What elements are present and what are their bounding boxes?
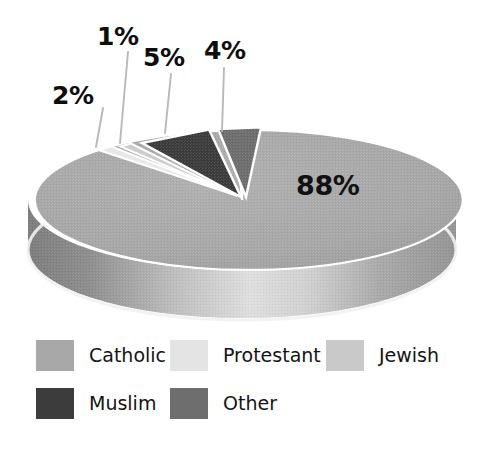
legend-item-muslim[interactable]: Muslim: [36, 386, 156, 420]
pie-label-muslim: 5%: [143, 45, 185, 70]
legend-label: Other: [223, 394, 277, 413]
leader-line-protestant: [96, 108, 103, 147]
leader-line-muslim: [165, 74, 171, 133]
legend-swatch-icon: [36, 388, 74, 419]
legend-label: Protestant: [223, 346, 321, 365]
leader-line-jewish: [120, 52, 128, 143]
pie-chart: 2% 1% 5% 4% 88% Catholic Protestant Jewi…: [0, 0, 486, 464]
legend-item-other[interactable]: Other: [170, 386, 277, 420]
pie-label-jewish: 1%: [97, 24, 139, 49]
legend-swatch-icon: [36, 340, 74, 371]
chart-legend: Catholic Protestant Jewish Muslim Other: [36, 338, 456, 438]
legend-swatch-icon: [326, 340, 364, 371]
legend-swatch-icon: [170, 340, 208, 371]
legend-swatch-icon: [170, 388, 208, 419]
legend-label: Jewish: [379, 346, 439, 365]
legend-row: Catholic Protestant Jewish: [36, 338, 456, 378]
pie-label-other: 4%: [204, 38, 246, 63]
pie-label-catholic: 88%: [296, 172, 359, 199]
leader-line-other: [222, 68, 224, 131]
legend-item-jewish[interactable]: Jewish: [326, 338, 439, 372]
legend-label: Muslim: [89, 394, 156, 413]
legend-label: Catholic: [89, 346, 166, 365]
legend-item-protestant[interactable]: Protestant: [170, 338, 321, 372]
legend-row: Muslim Other: [36, 386, 456, 426]
pie-label-protestant: 2%: [52, 83, 94, 108]
legend-item-catholic[interactable]: Catholic: [36, 338, 166, 372]
